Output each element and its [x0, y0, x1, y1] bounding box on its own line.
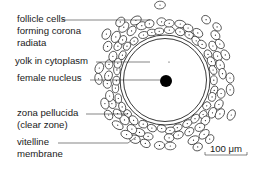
scale-bar: 100 μm	[205, 143, 247, 155]
follicle-cell-nucleus	[104, 103, 105, 104]
follicle-cell-nucleus	[169, 137, 170, 138]
follicle-cell-nucleus	[219, 113, 220, 114]
follicle-cell-nucleus	[143, 34, 144, 35]
follicle-cell-nucleus	[111, 103, 112, 104]
follicle-cell-nucleus	[141, 25, 142, 26]
follicle-cell-nucleus	[188, 27, 189, 28]
follicle-cell-nucleus	[107, 46, 108, 47]
follicle-cell-nucleus	[211, 61, 212, 62]
follicle-cell-nucleus	[139, 132, 140, 133]
follicle-cell-nucleus	[212, 45, 213, 46]
follicle-cell-nucleus	[118, 98, 119, 99]
follicle-cell-nucleus	[134, 41, 135, 42]
follicle-cell-nucleus	[126, 134, 127, 135]
follicle-cell-nucleus	[126, 46, 127, 47]
female-nucleus	[160, 75, 172, 87]
follicle-cell-nucleus	[159, 5, 160, 6]
follicle-cell-nucleus	[122, 106, 123, 107]
follicle-cell-nucleus	[209, 139, 210, 140]
follicle-cell-nucleus	[133, 120, 134, 121]
ovum-figure: follicle cellsforming coronaradiatayolk …	[0, 0, 262, 170]
follicle-cell-nucleus	[131, 30, 132, 31]
follicle-cell-nucleus	[117, 125, 118, 126]
follicle-cell-nucleus	[222, 73, 223, 74]
follicle-cell-nucleus	[159, 31, 160, 32]
follicle-cell-nucleus	[108, 75, 109, 76]
follicle-cell-nucleus	[116, 69, 117, 70]
follicle-cell-nucleus	[189, 34, 190, 35]
follicle-cell-nucleus	[120, 21, 121, 22]
follicle-cell-nucleus	[187, 123, 188, 124]
follicle-cell-nucleus	[212, 96, 213, 97]
label-text: vitelline	[17, 136, 49, 147]
follicle-cell-nucleus	[107, 83, 108, 84]
follicle-cell-nucleus	[199, 127, 200, 128]
follicle-cell-nucleus	[194, 118, 195, 119]
follicle-cell-nucleus	[161, 21, 162, 22]
follicle-cell-nucleus	[213, 69, 214, 70]
follicle-cell-nucleus	[206, 105, 207, 106]
follicle-cell-nucleus	[131, 129, 132, 130]
yolk-granule	[168, 61, 169, 62]
follicle-cell-nucleus	[204, 134, 205, 135]
follicle-cell-nucleus	[205, 120, 206, 121]
label-text: membrane	[17, 148, 63, 159]
follicle-cell-nucleus	[108, 64, 109, 65]
follicle-cell-nucleus	[115, 36, 116, 37]
follicle-cell-nucleus	[229, 77, 230, 78]
follicle-cell-nucleus	[177, 127, 178, 128]
label-text: radiata	[17, 37, 47, 48]
follicle-cell-nucleus	[189, 131, 190, 132]
label-text: follicle cells	[17, 13, 66, 24]
ovum-diagram: follicle cellsforming coronaradiatayolk …	[0, 0, 262, 170]
follicle-cell-nucleus	[213, 80, 214, 81]
follicle-cell-nucleus	[203, 114, 204, 115]
follicle-cell-nucleus	[217, 56, 218, 57]
follicle-cell-nucleus	[196, 40, 197, 41]
scale-bar-label: 100 μm	[210, 143, 242, 154]
follicle-cell-nucleus	[218, 104, 219, 105]
follicle-cell-nucleus	[179, 31, 180, 32]
follicle-cell-nucleus	[161, 128, 162, 129]
follicle-cell-nucleus	[206, 19, 207, 20]
follicle-cell-nucleus	[151, 32, 152, 33]
follicle-cell-nucleus	[169, 30, 170, 31]
follicle-cell-nucleus	[108, 114, 109, 115]
follicle-cell-nucleus	[169, 23, 170, 24]
follicle-cell-nucleus	[215, 35, 216, 36]
follicle-cell-nucleus	[220, 65, 221, 66]
label-text: (clear zone)	[17, 119, 68, 130]
follicle-cell-nucleus	[230, 89, 231, 90]
follicle-cell-nucleus	[123, 27, 124, 28]
follicle-cell-nucleus	[151, 128, 152, 129]
follicle-cell-nucleus	[170, 145, 171, 146]
follicle-cell-nucleus	[197, 32, 198, 33]
follicle-cell-nucleus	[124, 119, 125, 120]
follicle-cell-nucleus	[221, 93, 222, 94]
follicle-cell-nucleus	[169, 130, 170, 131]
label-vitelline-membrane: vitellinemembrane	[17, 136, 136, 159]
follicle-cell-nucleus	[197, 146, 198, 147]
follicle-cell-nucleus	[134, 139, 135, 140]
follicle-cell-nucleus	[180, 23, 181, 24]
label-text: yolk in cytoplasm	[15, 55, 88, 66]
label-text: forming corona	[17, 25, 82, 36]
follicle-cell-nucleus	[112, 56, 113, 57]
follicle-cell-nucleus	[98, 78, 99, 79]
follicle-cell-nucleus	[122, 55, 123, 56]
follicle-cell-nucleus	[117, 63, 118, 64]
follicle-cell-nucleus	[149, 23, 150, 24]
follicle-cell-nucleus	[148, 136, 149, 137]
follicle-cell-nucleus	[143, 124, 144, 125]
follicle-cell-nucleus	[117, 46, 118, 47]
follicle-cell-nucleus	[193, 140, 194, 141]
follicle-cell-nucleus	[178, 134, 179, 135]
follicle-cell-nucleus	[225, 54, 226, 55]
follicle-cell-nucleus	[219, 43, 220, 44]
follicle-cell-nucleus	[145, 143, 146, 144]
follicle-cell-nucleus	[207, 54, 208, 55]
follicle-cell-nucleus	[212, 112, 213, 113]
follicle-cell-nucleus	[159, 145, 160, 146]
follicle-cell-nucleus	[214, 90, 215, 91]
follicle-cell-nucleus	[202, 44, 203, 45]
